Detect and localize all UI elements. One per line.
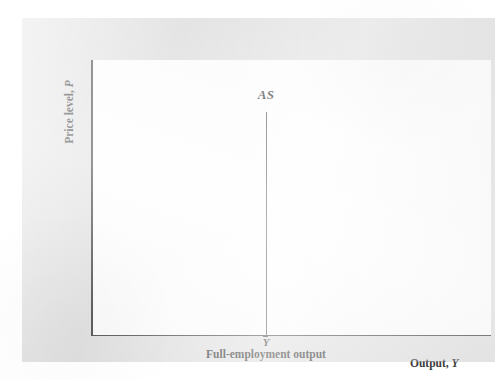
full-employment-tick-label: Y — [248, 335, 284, 348]
figure-panel: AS Price level, P Y Full-employment outp… — [22, 18, 495, 362]
aggregate-supply-figure: AS Price level, P Y Full-employment outp… — [0, 0, 504, 380]
y-axis-label-symbol: P — [63, 80, 75, 87]
y-axis-label: Price level, P — [63, 52, 75, 172]
y-axis-label-text: Price level, — [63, 87, 75, 144]
as-curve-label: AS — [244, 87, 288, 103]
x-axis-label: Output, Y — [410, 357, 504, 369]
plot-area — [92, 60, 491, 335]
y-bar-symbol: Y — [263, 335, 270, 348]
y-axis-line — [91, 60, 93, 336]
x-axis-label-text: Output, — [410, 357, 452, 369]
full-employment-caption: Full-employment output — [146, 348, 386, 360]
x-axis-line — [91, 335, 491, 337]
aggregate-supply-curve — [266, 112, 268, 335]
x-axis-label-symbol: Y — [452, 357, 459, 369]
